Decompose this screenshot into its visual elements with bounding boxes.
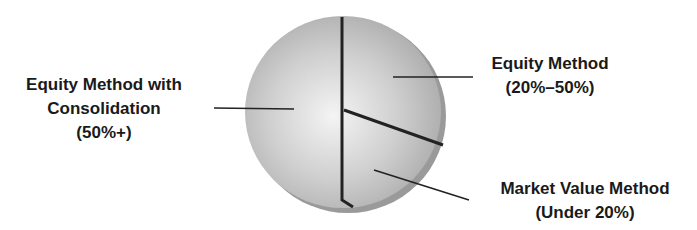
leader-left	[214, 108, 294, 109]
label-equity-method: Equity Method (20%–50%)	[475, 52, 625, 100]
label-equity-consolidation: Equity Method with Consolidation (50%+)	[4, 73, 204, 145]
label-market-value: Market Value Method (Under 20%)	[474, 177, 696, 225]
